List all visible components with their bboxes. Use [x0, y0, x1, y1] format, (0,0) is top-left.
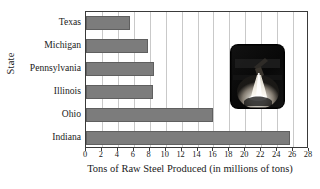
gridline: [150, 12, 151, 147]
category-label-pennsylvania: Pennsylvania: [18, 63, 81, 73]
x-tick-label: 0: [83, 150, 87, 160]
x-tick-label: 14: [192, 150, 200, 160]
gridline: [182, 12, 183, 147]
molten-steel-photo: [231, 45, 284, 108]
gridline: [118, 12, 119, 147]
bar-pennsylvania: [86, 62, 154, 76]
bar-chart: State TexasMichiganPennsylvaniaIllinoisO…: [0, 0, 320, 189]
bar-ohio: [86, 108, 213, 122]
x-axis-tick-labels: 0246810121416182022242628: [85, 150, 308, 162]
category-label-michigan: Michigan: [18, 40, 81, 50]
gridline: [134, 12, 135, 147]
category-label-illinois: Illinois: [18, 86, 81, 96]
x-tick-label: 18: [224, 150, 232, 160]
x-tick-label: 24: [272, 150, 280, 160]
x-tick-label: 6: [131, 150, 135, 160]
y-axis-title: State: [5, 34, 16, 94]
bar-michigan: [86, 39, 148, 53]
bar-texas: [86, 16, 130, 30]
x-tick-label: 22: [256, 150, 264, 160]
x-tick-label: 26: [288, 150, 296, 160]
x-tick-label: 10: [160, 150, 168, 160]
x-tick-label: 20: [240, 150, 248, 160]
x-tick-label: 12: [176, 150, 184, 160]
x-tick-label: 16: [208, 150, 216, 160]
x-tick-label: 28: [304, 150, 312, 160]
bar-illinois: [86, 85, 153, 99]
x-axis-title: Tons of Raw Steel Produced (in millions …: [60, 163, 320, 174]
gridline: [213, 12, 214, 147]
molten-steel-photo-graphic: [231, 45, 284, 108]
category-axis-labels: TexasMichiganPennsylvaniaIllinoisOhioInd…: [18, 11, 81, 148]
gridline: [102, 12, 103, 147]
bar-indiana: [86, 131, 290, 145]
gridline: [293, 12, 294, 147]
gridline: [166, 12, 167, 147]
x-tick-label: 2: [99, 150, 103, 160]
category-label-ohio: Ohio: [18, 109, 81, 119]
category-label-indiana: Indiana: [18, 132, 81, 142]
gridline: [198, 12, 199, 147]
x-tick-label: 4: [115, 150, 119, 160]
x-tick-label: 8: [147, 150, 151, 160]
plot-area: [85, 11, 308, 148]
category-label-texas: Texas: [18, 17, 81, 27]
